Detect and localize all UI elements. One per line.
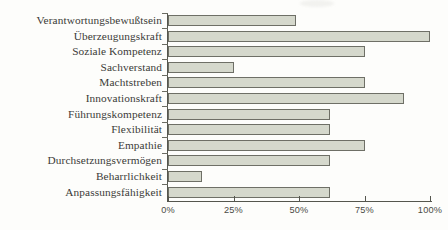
x-axis-tick-label: 0% xyxy=(161,205,175,215)
x-axis-tick-label: 50% xyxy=(290,205,309,215)
x-axis-tick xyxy=(365,196,366,202)
y-axis-tick xyxy=(162,106,168,107)
category-label: Beharrlichkeit xyxy=(96,170,162,182)
category-label: Überzeugungskraft xyxy=(74,30,162,42)
bar-row xyxy=(168,62,430,73)
x-axis-tick xyxy=(430,196,431,202)
y-axis-tick xyxy=(162,13,168,14)
bar xyxy=(168,109,330,120)
category-label: Flexibilität xyxy=(111,123,162,135)
bar xyxy=(168,171,202,182)
category-label: Verantwortungsbewußtsein xyxy=(37,14,162,26)
bar-row xyxy=(168,77,430,88)
bar xyxy=(168,15,296,26)
x-axis-tick-label: 25% xyxy=(224,205,243,215)
x-axis-tick xyxy=(234,196,235,202)
category-label: Anpassungsfähigkeit xyxy=(65,186,162,198)
bar xyxy=(168,124,330,135)
bar xyxy=(168,155,330,166)
bar-row xyxy=(168,124,430,135)
category-label: Führungskompetenz xyxy=(68,108,162,120)
plot-area: VerantwortungsbewußtseinÜberzeugungskraf… xyxy=(0,0,448,230)
x-axis-tick xyxy=(168,196,169,202)
y-axis-tick xyxy=(162,122,168,123)
y-axis-tick xyxy=(162,91,168,92)
category-label: Soziale Kompetenz xyxy=(72,45,162,57)
y-axis-tick xyxy=(162,44,168,45)
bar xyxy=(168,46,365,57)
bar xyxy=(168,140,365,151)
bar-row xyxy=(168,31,430,42)
y-axis-tick xyxy=(162,153,168,154)
bar-row xyxy=(168,171,430,182)
y-axis-tick xyxy=(162,169,168,170)
bar xyxy=(168,93,404,104)
bar-row xyxy=(168,109,430,120)
y-axis-tick xyxy=(162,59,168,60)
y-axis-tick xyxy=(162,184,168,185)
category-label: Empathie xyxy=(118,139,162,151)
bar xyxy=(168,77,365,88)
bar xyxy=(168,31,430,42)
bar-row xyxy=(168,155,430,166)
bar xyxy=(168,187,330,198)
bar-chart-figure: VerantwortungsbewußtseinÜberzeugungskraf… xyxy=(0,0,448,230)
category-label: Innovationskraft xyxy=(86,92,162,104)
category-label: Machtstreben xyxy=(99,76,162,88)
category-label: Durchsetzungsvermögen xyxy=(48,154,162,166)
bar-row xyxy=(168,15,430,26)
y-axis-tick xyxy=(162,75,168,76)
category-label: Sachverstand xyxy=(101,61,162,73)
x-axis-tick xyxy=(299,196,300,202)
bar xyxy=(168,62,234,73)
bar-row xyxy=(168,140,430,151)
x-axis-tick-label: 100% xyxy=(418,205,442,215)
bar-row xyxy=(168,46,430,57)
bar-row xyxy=(168,93,430,104)
y-axis-tick xyxy=(162,137,168,138)
y-axis-tick xyxy=(162,28,168,29)
x-axis-tick-label: 75% xyxy=(355,205,374,215)
